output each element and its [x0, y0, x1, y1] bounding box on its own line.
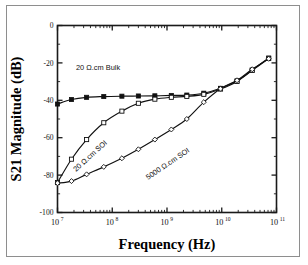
x-tick-label: 10	[215, 218, 223, 227]
x-axis-title: Frequency (Hz)	[119, 236, 216, 253]
data-point-marker	[202, 92, 206, 96]
plot-frame	[58, 26, 277, 213]
x-tick-exponent: 10	[225, 216, 231, 222]
axes-layer	[58, 26, 277, 213]
series-annotation-1: 20 Ω.cm Bulk	[76, 63, 120, 72]
y-axis-title: S21 Magnitude (dB)	[8, 56, 25, 181]
data-point-marker	[69, 98, 73, 102]
x-tick-label: 10	[106, 218, 114, 227]
data-point-marker	[120, 94, 124, 98]
data-point-marker	[84, 172, 89, 177]
data-point-marker	[85, 138, 89, 142]
x-tick-exponent: 9	[170, 216, 173, 222]
data-point-marker	[102, 95, 106, 99]
series-annotation-3: 5000 Ω.cm SOI	[144, 146, 191, 182]
data-point-marker	[69, 179, 74, 184]
data-point-marker	[55, 102, 59, 106]
y-tick-label: -80	[43, 171, 53, 180]
data-point-marker	[169, 95, 173, 99]
y-tick-label: -20	[43, 59, 53, 68]
x-tick-label: 10	[270, 218, 278, 227]
data-point-marker	[101, 164, 106, 169]
figure-root: 107108109101010110-20-40-60-80-10020 Ω.c…	[0, 0, 308, 265]
labels-layer: 107108109101010110-20-40-60-80-10020 Ω.c…	[8, 21, 285, 252]
data-point-marker	[136, 94, 140, 98]
data-point-marker	[120, 109, 124, 113]
data-point-marker	[69, 157, 73, 161]
data-point-marker	[102, 121, 106, 125]
data-point-marker	[153, 97, 157, 101]
s21-magnitude-chart: 107108109101010110-20-40-60-80-10020 Ω.c…	[0, 0, 308, 265]
y-tick-label: -100	[40, 208, 54, 217]
y-tick-label: 0	[50, 21, 54, 30]
y-tick-label: -60	[43, 133, 53, 142]
data-point-marker	[152, 137, 157, 142]
data-point-marker	[136, 147, 141, 152]
data-point-marker	[119, 156, 124, 161]
x-tick-exponent: 7	[61, 216, 64, 222]
x-tick-label: 10	[51, 218, 59, 227]
x-tick-exponent: 11	[280, 216, 286, 222]
data-point-marker	[136, 101, 140, 105]
x-tick-label: 10	[161, 218, 169, 227]
x-tick-exponent: 8	[115, 216, 118, 222]
data-point-marker	[85, 95, 89, 99]
data-point-marker	[185, 94, 189, 98]
y-tick-label: -40	[43, 96, 53, 105]
